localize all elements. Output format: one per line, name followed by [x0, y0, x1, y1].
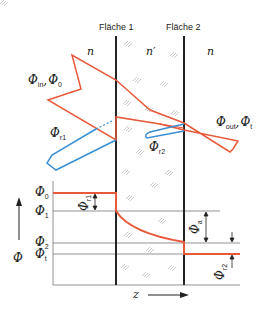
incident-flux-label: Φin,Φ0 [28, 73, 62, 88]
diff-r2-label: Φr2 [213, 264, 228, 280]
medium-left-label: n [87, 45, 94, 58]
z-axis-arrowhead-icon [180, 292, 189, 298]
medium-middle-label: n′ [146, 45, 156, 58]
diff-a-label: Φa [188, 220, 203, 234]
x-axis-label: z [132, 288, 139, 301]
level-phi0-label: Φ0 [35, 185, 49, 200]
reflected-r1-label: Φr1 [50, 126, 66, 141]
difference-arrows [93, 194, 234, 268]
surface-2-label: Fläche 2 [166, 22, 201, 32]
y-axis-label: Φ [13, 251, 23, 265]
transmitted-flux-label: Φout,Φt [216, 115, 252, 130]
reflection-r1-dashed [96, 120, 114, 129]
diff-r1-label: Φr1 [77, 195, 92, 211]
glass-hatching [0, 0, 179, 278]
level-phi1-label: Φ1 [35, 204, 49, 219]
medium-right-label: n [207, 45, 214, 58]
flux-beam [48, 55, 238, 152]
y-axis-arrowhead-icon [16, 197, 22, 206]
surface-1-label: Fläche 1 [99, 22, 134, 32]
flux-diagram: Fläche 1 Fläche 2 n n′ n Φin,Φ0 Φr1 Φr2 … [0, 0, 265, 312]
reflection-r2 [146, 124, 184, 138]
reflected-r2-label: Φr2 [149, 140, 165, 155]
